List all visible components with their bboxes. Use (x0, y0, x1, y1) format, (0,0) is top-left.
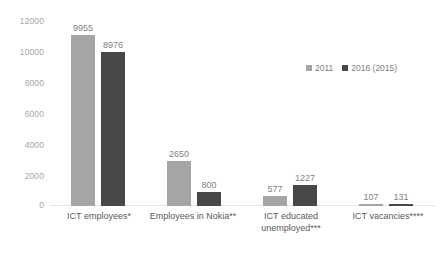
y-tick-label: 6000 (25, 110, 44, 119)
bar-value-label: 9955 (63, 23, 103, 33)
bar-2011[interactable] (263, 196, 287, 206)
bar-value-label: 577 (255, 184, 295, 194)
bar-value-label: 2650 (159, 149, 199, 159)
bar-value-label: 1227 (285, 173, 325, 183)
bar-2011[interactable] (167, 161, 191, 207)
y-tick-label: 2000 (25, 172, 44, 181)
x-category-label: ICT vacancies**** (340, 211, 436, 223)
legend-label: 2016 (2015) (351, 63, 397, 73)
bar-value-label: 800 (189, 180, 229, 190)
y-tick-label: 4000 (25, 141, 44, 150)
y-tick-label: 12000 (20, 17, 44, 26)
y-tick-label: 10000 (20, 48, 44, 57)
legend-item-2016[interactable]: 2016 (2015) (342, 63, 397, 73)
bar-2016[interactable] (293, 185, 317, 206)
legend-label: 2011 (315, 63, 333, 73)
bar-group: 9955 8976 (64, 0, 134, 206)
legend-swatch-icon (306, 65, 312, 71)
bar-value-label: 8976 (93, 40, 133, 50)
bar-2011[interactable] (359, 204, 383, 206)
bar-value-label: 131 (381, 192, 421, 202)
bar-2011[interactable] (71, 35, 95, 206)
legend-item-2011[interactable]: 2011 (306, 63, 333, 73)
y-axis: 12000 10000 8000 6000 4000 2000 0 (0, 0, 48, 254)
x-category-label: Employees in Nokia** (143, 211, 243, 223)
plot-area: 9955 8976 2650 800 577 1227 107 131 (50, 0, 436, 206)
y-tick-label: 0 (39, 201, 44, 210)
y-tick-label: 8000 (25, 79, 44, 88)
x-category-label: ICT educated unemployed*** (243, 211, 339, 234)
bar-group: 577 1227 (256, 0, 326, 206)
x-category-label: ICT employees* (50, 211, 148, 223)
bar-group: 2650 800 (160, 0, 230, 206)
bar-2016[interactable] (101, 52, 125, 206)
bar-group: 107 131 (352, 0, 422, 206)
legend: 2011 2016 (2015) (306, 63, 397, 73)
bar-2016[interactable] (197, 192, 221, 206)
bar-chart: 12000 10000 8000 6000 4000 2000 0 9955 8… (0, 0, 440, 254)
legend-swatch-icon (342, 65, 348, 71)
bar-2016[interactable] (389, 204, 413, 206)
